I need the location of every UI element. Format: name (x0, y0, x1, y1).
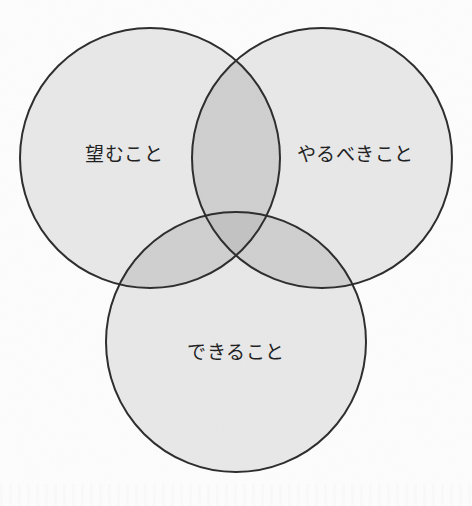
venn-diagram-figure: 望むこと やるべきこと できること (0, 0, 472, 506)
venn-label-should: やるべきこと (297, 143, 414, 165)
venn-label-want: 望むこと (85, 143, 163, 165)
venn-diagram-canvas: 望むこと やるべきこと できること (0, 0, 472, 506)
venn-label-can: できること (187, 341, 285, 363)
